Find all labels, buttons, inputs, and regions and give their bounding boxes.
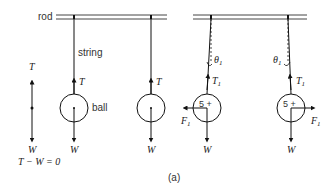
ball4-weight-label: W bbox=[287, 144, 297, 155]
ball3-tension-label: T1 bbox=[212, 75, 221, 88]
ball4-tension-label: T1 bbox=[296, 75, 305, 88]
ball3-weight-label: W bbox=[203, 144, 213, 155]
equilibrium-equation: T − W = 0 bbox=[18, 156, 60, 167]
ball4-side-force-label: F1 bbox=[310, 115, 321, 128]
figure-caption: (a) bbox=[168, 172, 180, 183]
ball2-weight-label: W bbox=[147, 144, 157, 155]
ball1-weight-label: W bbox=[70, 144, 80, 155]
ball3-side-force-label: F1 bbox=[180, 115, 191, 128]
ball4-mark: 5 + bbox=[283, 99, 296, 109]
ball2-tension-label: T bbox=[156, 76, 163, 87]
rod-label: rod bbox=[38, 11, 52, 22]
free-body-t-label: T bbox=[29, 61, 36, 72]
ball1-tension-label: T bbox=[79, 76, 86, 87]
angle-label-right: θ1 bbox=[273, 54, 281, 67]
hanging-ball-1: T W string ball bbox=[60, 15, 108, 155]
free-body-diagram: T W T − W = 0 bbox=[18, 61, 60, 167]
string-label: string bbox=[78, 47, 102, 58]
hanging-ball-2: T W bbox=[137, 15, 165, 155]
physics-diagram: rod T W T − W = 0 T W string ball T W bbox=[0, 0, 332, 190]
free-body-w-label: W bbox=[28, 144, 38, 155]
deflected-ball-right: 5 + θ1 T1 F1 W bbox=[273, 15, 321, 155]
angle-label-left: θ1 bbox=[214, 54, 222, 67]
ball-label: ball bbox=[92, 102, 108, 113]
ball3-mark: 5 + bbox=[199, 99, 212, 109]
deflected-ball-left: 5 + θ1 T1 F1 W bbox=[180, 15, 222, 155]
